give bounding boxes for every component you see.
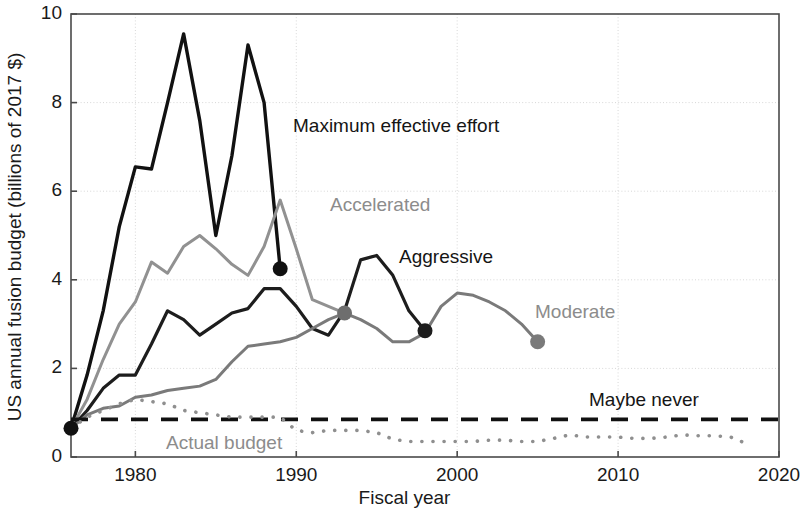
marker-accelerated-end xyxy=(337,306,352,321)
x-tick-label: 2000 xyxy=(422,464,492,486)
y-tick-label: 2 xyxy=(16,356,62,378)
fusion-budget-chart-figure: US annual fusion budget (billions of 201… xyxy=(0,0,809,523)
marker-moderate-end xyxy=(530,334,545,349)
annotation-maybe-never: Maybe never xyxy=(589,389,699,411)
marker-aggressive-end xyxy=(418,323,433,338)
x-axis-label: Fiscal year xyxy=(0,487,809,509)
annotation-moderate: Moderate xyxy=(535,301,615,323)
annotation-actual-budget: Actual budget xyxy=(166,432,282,454)
series-line-maximum-effective-effort xyxy=(71,34,280,428)
marker-common-origin xyxy=(64,421,79,436)
data-series xyxy=(71,34,779,444)
y-tick-label: 4 xyxy=(16,268,62,290)
y-tick-label: 0 xyxy=(16,445,62,467)
x-tick-label: 2010 xyxy=(583,464,653,486)
y-axis-label: US annual fusion budget (billions of 201… xyxy=(4,12,26,462)
annotation-aggressive: Aggressive xyxy=(399,246,493,268)
series-line-moderate xyxy=(71,293,538,428)
annotation-accelerated: Accelerated xyxy=(330,194,430,216)
x-tick-label: 1990 xyxy=(261,464,331,486)
x-tick-label: 1980 xyxy=(100,464,170,486)
series-end-markers xyxy=(64,261,546,435)
marker-maximum-effective-effort-end xyxy=(273,261,288,276)
x-tick-label: 2020 xyxy=(744,464,809,486)
y-tick-label: 8 xyxy=(16,91,62,113)
y-tick-label: 10 xyxy=(16,2,62,24)
y-tick-label: 6 xyxy=(16,179,62,201)
annotation-maximum-effective-effort: Maximum effective effort xyxy=(293,115,499,137)
